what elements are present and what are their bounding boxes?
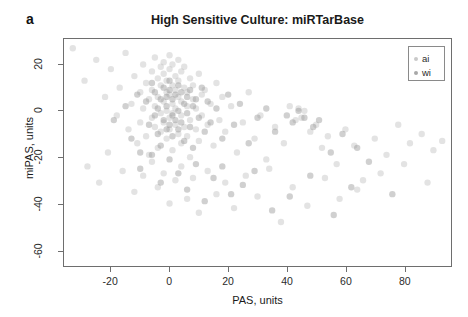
data-point [204, 168, 210, 174]
scatter-points [64, 39, 451, 266]
data-point [178, 163, 184, 169]
y-tick-mark [58, 204, 63, 205]
data-point [166, 200, 172, 206]
data-point [389, 191, 395, 197]
data-point [228, 103, 234, 109]
data-point [254, 115, 260, 121]
data-point [158, 96, 164, 102]
data-point [213, 191, 219, 197]
data-point [254, 193, 260, 199]
data-point [354, 186, 360, 192]
data-point [304, 203, 310, 209]
y-tick-label: -40 [32, 191, 44, 217]
data-point [222, 179, 228, 185]
data-point [281, 140, 287, 146]
data-point [193, 161, 199, 167]
data-point [172, 91, 178, 97]
data-point [439, 138, 445, 144]
x-tick-label: 80 [399, 275, 411, 287]
x-tick-label: 40 [281, 275, 293, 287]
data-point [231, 122, 237, 128]
data-point [196, 71, 202, 77]
data-point [155, 75, 161, 81]
data-point [401, 161, 407, 167]
data-point [102, 94, 108, 100]
data-point [184, 196, 190, 202]
data-point [196, 115, 202, 121]
data-point [319, 145, 325, 151]
data-point [161, 59, 167, 65]
data-point [137, 149, 143, 155]
legend-label: wi [422, 68, 431, 78]
data-point [175, 82, 181, 88]
x-tick-mark [405, 267, 406, 272]
data-point [240, 119, 246, 125]
x-tick-mark [287, 267, 288, 272]
data-point [143, 80, 149, 86]
data-point [219, 94, 225, 100]
data-point [190, 103, 196, 109]
data-point [178, 89, 184, 95]
data-point [383, 152, 389, 158]
series-ai [70, 45, 446, 225]
data-point [407, 140, 413, 146]
data-point [190, 145, 196, 151]
data-point [143, 98, 149, 104]
data-point [251, 168, 257, 174]
legend-item-wi[interactable]: wi [409, 65, 444, 80]
data-point [175, 126, 181, 132]
data-point [430, 147, 436, 153]
data-point [307, 172, 313, 178]
data-point [216, 117, 222, 123]
data-point [328, 149, 334, 155]
y-tick-label: 20 [32, 51, 44, 77]
data-point [366, 159, 372, 165]
x-tick-label: -20 [103, 275, 118, 287]
data-point [96, 179, 102, 185]
data-point [240, 182, 246, 188]
data-point [360, 177, 366, 183]
y-tick-mark [58, 64, 63, 65]
data-point [187, 154, 193, 160]
x-tick-mark [110, 267, 111, 272]
legend-box: aiwi [408, 46, 445, 81]
data-point [331, 212, 337, 218]
data-point [251, 135, 257, 141]
data-point [137, 119, 143, 125]
data-point [395, 122, 401, 128]
data-point [131, 189, 137, 195]
data-point [152, 124, 158, 130]
data-point [152, 112, 158, 118]
data-point [372, 135, 378, 141]
y-tick-mark [58, 251, 63, 252]
data-point [172, 177, 178, 183]
data-point [178, 119, 184, 125]
data-point [184, 186, 190, 192]
legend-item-ai[interactable]: ai [409, 51, 444, 66]
data-point [228, 191, 234, 197]
data-point [181, 64, 187, 70]
data-point [287, 193, 293, 199]
data-point [166, 87, 172, 93]
data-point [163, 94, 169, 100]
x-tick-mark [228, 267, 229, 272]
data-point [204, 98, 210, 104]
data-point [137, 166, 143, 172]
data-point [152, 89, 158, 95]
data-point [187, 124, 193, 130]
data-point [310, 124, 316, 130]
data-point [316, 117, 322, 123]
legend-marker-icon [414, 57, 418, 61]
data-point [155, 131, 161, 137]
data-point [166, 122, 172, 128]
data-point [202, 128, 208, 134]
data-point [301, 115, 307, 121]
data-point [70, 45, 76, 51]
data-point [149, 152, 155, 158]
data-point [161, 71, 167, 77]
data-point [140, 61, 146, 67]
y-tick-mark [58, 157, 63, 158]
data-point [263, 105, 269, 111]
data-point [84, 163, 90, 169]
data-point [213, 80, 219, 86]
